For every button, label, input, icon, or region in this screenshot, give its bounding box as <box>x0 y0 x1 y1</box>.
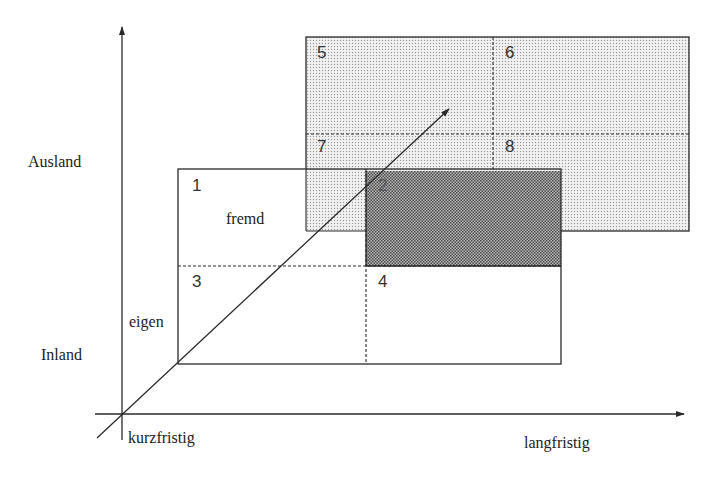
cell-number-1: 1 <box>192 176 201 196</box>
cell-number-4: 4 <box>378 272 387 292</box>
cell-number-2: 2 <box>378 176 387 196</box>
y-label-inland: Inland <box>41 346 82 364</box>
x-label-kurzfristig: kurzfristig <box>128 429 195 447</box>
z-label-fremd: fremd <box>226 210 264 228</box>
z-label-eigen: eigen <box>129 313 164 331</box>
front-box <box>178 169 561 364</box>
cell-number-6: 6 <box>505 43 514 63</box>
cell-number-3: 3 <box>192 272 201 292</box>
diagram-canvas <box>0 0 716 481</box>
cell-number-8: 8 <box>505 137 514 157</box>
cell-number-5: 5 <box>317 43 326 63</box>
cell-number-7: 7 <box>317 137 326 157</box>
y-label-ausland: Ausland <box>28 153 81 171</box>
x-label-langfristig: langfristig <box>524 434 590 452</box>
